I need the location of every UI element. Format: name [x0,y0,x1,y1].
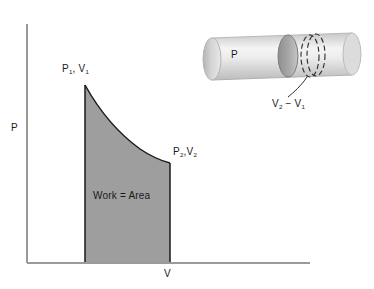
work-area-label: Work = Area [93,191,150,201]
y-axis-label: P [11,123,18,133]
cylinder-pressure-label: P [231,50,238,60]
point-1-label: P1, V1 [62,64,89,74]
cylinder-right-end [343,33,361,75]
cylinder-group [203,33,361,97]
cylinder-left-cap [203,38,221,80]
figure-canvas [0,0,374,289]
delta-volume-label: V2 − V1 [272,99,305,109]
pv-diagram-figure: P1, V1 P2,V2 Work = Area P V P V2 − V1 [0,0,374,289]
point-2-label: P2,V2 [173,147,197,157]
work-area-shape [85,85,170,262]
piston-disc [278,35,298,77]
x-axis-label: V [164,269,171,279]
delta-volume-leader-line [288,77,307,97]
